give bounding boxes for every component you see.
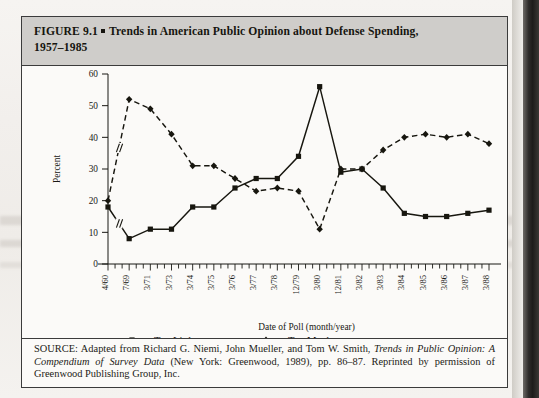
svg-text:3/76: 3/76	[227, 274, 237, 290]
axis-break-marker	[116, 218, 123, 228]
svg-text:12/81: 12/81	[333, 275, 343, 295]
svg-text:3/80: 3/80	[312, 275, 322, 290]
book-gutter-shadow	[523, 0, 539, 398]
source-divider	[22, 338, 507, 339]
svg-text:3/84: 3/84	[396, 274, 406, 290]
figure-number: FIGURE 9.1	[34, 25, 98, 38]
svg-text:Date of Poll (month/year): Date of Poll (month/year)	[258, 322, 355, 333]
chart-plot-area: 01020304050604/607/693/713/733/743/753/7…	[22, 66, 507, 338]
figure-title-band: FIGURE 9.1Trends in American Public Opin…	[22, 17, 507, 66]
svg-text:3/74: 3/74	[185, 274, 195, 290]
page-edge	[512, 0, 523, 398]
svg-text:3/88: 3/88	[481, 275, 491, 290]
series-too-much	[105, 96, 492, 233]
figure-title-line1: Trends in American Public Opinion about …	[109, 25, 419, 38]
axis-labels-group: 01020304050604/607/693/713/733/743/753/7…	[52, 69, 491, 333]
svg-text:3/73: 3/73	[164, 275, 174, 290]
svg-text:Percent: Percent	[52, 155, 62, 184]
svg-text:3/82: 3/82	[354, 275, 364, 290]
svg-text:10: 10	[89, 228, 99, 238]
figure-title: FIGURE 9.1Trends in American Public Opin…	[34, 24, 497, 55]
defense-spending-line-chart: 01020304050604/607/693/713/733/743/753/7…	[22, 66, 507, 338]
svg-text:3/83: 3/83	[375, 275, 385, 290]
data-series-group	[105, 84, 492, 241]
svg-text:12/79: 12/79	[291, 275, 301, 295]
svg-text:3/77: 3/77	[248, 274, 258, 290]
axes-group	[98, 74, 501, 271]
svg-text:0: 0	[93, 259, 98, 269]
axis-break-marker	[116, 143, 123, 153]
svg-text:3/75: 3/75	[206, 275, 216, 290]
svg-text:40: 40	[89, 133, 99, 143]
figure-container: FIGURE 9.1Trends in American Public Opin…	[21, 16, 508, 388]
svg-text:50: 50	[89, 101, 99, 111]
figure-title-line2: 1957–1985	[34, 41, 88, 54]
svg-text:3/71: 3/71	[142, 275, 152, 290]
source-note: SOURCE: Adapted from Richard G. Niemi, J…	[22, 338, 507, 381]
source-text-a: Adapted from Richard G. Niemi, John Muel…	[78, 343, 374, 354]
source-prefix: SOURCE:	[34, 343, 78, 354]
svg-text:20: 20	[89, 196, 99, 206]
svg-text:4/60: 4/60	[100, 275, 110, 290]
svg-text:7/69: 7/69	[121, 275, 131, 290]
series-too-little	[105, 84, 491, 241]
svg-text:3/86: 3/86	[439, 274, 449, 290]
svg-text:3/85: 3/85	[418, 275, 428, 290]
svg-text:3/87: 3/87	[460, 274, 470, 290]
svg-text:3/78: 3/78	[269, 275, 279, 290]
svg-text:30: 30	[89, 164, 99, 174]
svg-text:60: 60	[89, 69, 99, 79]
bullet-icon	[101, 29, 105, 33]
